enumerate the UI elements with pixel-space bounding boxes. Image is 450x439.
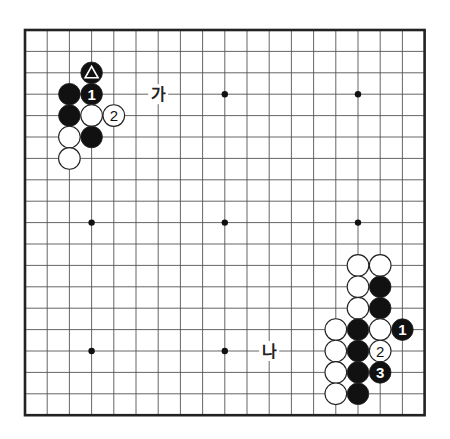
white-stone: 2 [103, 105, 125, 127]
point-label: 나 [259, 341, 279, 361]
white-stone [347, 276, 369, 298]
black-stone [59, 83, 81, 105]
move-number: 1 [87, 86, 95, 103]
move-number: 1 [398, 321, 406, 338]
white-stone [325, 362, 347, 384]
point-label: 가 [148, 84, 168, 104]
black-stone: 1 [81, 83, 103, 105]
stones-layer: 12123 [59, 62, 414, 405]
white-stone [325, 340, 347, 362]
white-stone [59, 126, 81, 148]
go-board-diagram: 가나 12123 [0, 0, 450, 439]
star-point [88, 348, 94, 354]
black-stone [347, 362, 369, 384]
black-stone [81, 62, 103, 84]
black-stone [369, 297, 391, 319]
white-stone [325, 319, 347, 341]
white-stone [59, 148, 81, 170]
black-stone [81, 126, 103, 148]
star-point [222, 91, 228, 97]
move-number: 2 [110, 107, 118, 124]
move-number: 3 [376, 364, 384, 381]
white-stone: 2 [369, 340, 391, 362]
star-point [355, 219, 361, 225]
white-stone [369, 255, 391, 277]
black-stone [369, 276, 391, 298]
star-point [88, 219, 94, 225]
black-stone [347, 340, 369, 362]
white-stone [325, 383, 347, 405]
move-number: 2 [376, 343, 384, 360]
star-point [355, 91, 361, 97]
svg-text:가: 가 [151, 85, 166, 104]
star-point [222, 348, 228, 354]
white-stone [347, 255, 369, 277]
black-stone [59, 105, 81, 127]
black-stone: 3 [369, 362, 391, 384]
white-stone [81, 105, 103, 127]
black-stone [347, 383, 369, 405]
white-stone [347, 297, 369, 319]
black-stone [347, 319, 369, 341]
white-stone [369, 319, 391, 341]
svg-text:나: 나 [262, 342, 277, 361]
black-stone: 1 [392, 319, 414, 341]
star-point [222, 219, 228, 225]
